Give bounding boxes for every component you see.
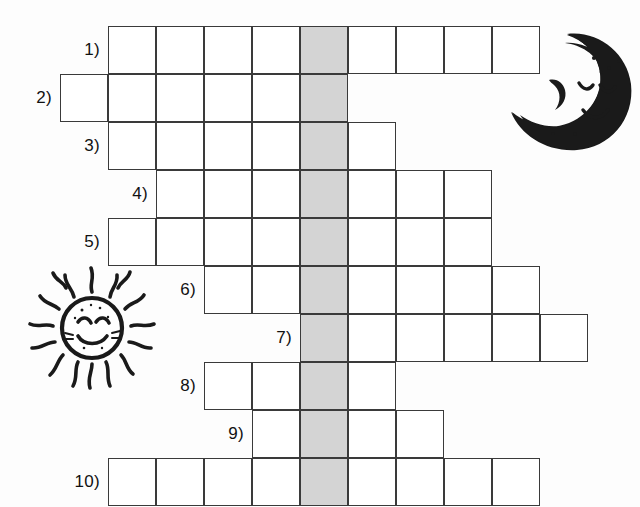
crossword-cell[interactable] xyxy=(396,410,444,458)
sun-illustration xyxy=(18,262,166,394)
crossword-cell[interactable] xyxy=(108,122,156,170)
crossword-cell[interactable] xyxy=(300,266,348,314)
crossword-cell[interactable] xyxy=(300,314,348,362)
crossword-cell[interactable] xyxy=(348,170,396,218)
crossword-cell[interactable] xyxy=(204,122,252,170)
crossword-cell[interactable] xyxy=(300,122,348,170)
crossword-cell[interactable] xyxy=(156,218,204,266)
crossword-cell[interactable] xyxy=(300,362,348,410)
crossword-cell[interactable] xyxy=(108,26,156,74)
crossword-cell[interactable] xyxy=(540,314,588,362)
crossword-cell[interactable] xyxy=(252,218,300,266)
crossword-cell[interactable] xyxy=(348,458,396,506)
crossword-cell[interactable] xyxy=(492,458,540,506)
crossword-cell[interactable] xyxy=(204,74,252,122)
crossword-cell[interactable] xyxy=(60,74,108,122)
crossword-cell[interactable] xyxy=(444,314,492,362)
crossword-cell[interactable] xyxy=(156,26,204,74)
crossword-cell[interactable] xyxy=(252,170,300,218)
crossword-cell[interactable] xyxy=(156,458,204,506)
crossword-cell[interactable] xyxy=(108,458,156,506)
crossword-cell[interactable] xyxy=(348,26,396,74)
crossword-cell[interactable] xyxy=(252,410,300,458)
clue-number-2: 2) xyxy=(2,89,52,106)
crossword-cell[interactable] xyxy=(300,74,348,122)
crossword-cell[interactable] xyxy=(348,410,396,458)
crossword-cell[interactable] xyxy=(492,314,540,362)
crossword-cell[interactable] xyxy=(252,74,300,122)
crossword-cell[interactable] xyxy=(444,170,492,218)
crossword-cell[interactable] xyxy=(348,122,396,170)
crossword-cell[interactable] xyxy=(492,266,540,314)
crossword-cell[interactable] xyxy=(300,218,348,266)
crossword-cell[interactable] xyxy=(396,170,444,218)
crossword-cell[interactable] xyxy=(204,218,252,266)
crossword-cell[interactable] xyxy=(252,458,300,506)
crossword-cell[interactable] xyxy=(204,458,252,506)
crossword-cell[interactable] xyxy=(300,26,348,74)
crossword-cell[interactable] xyxy=(252,362,300,410)
crossword-cell[interactable] xyxy=(396,26,444,74)
moon-illustration xyxy=(505,28,635,153)
crossword-cell[interactable] xyxy=(396,314,444,362)
crossword-cell[interactable] xyxy=(396,458,444,506)
crossword-cell[interactable] xyxy=(348,218,396,266)
clue-number-5: 5) xyxy=(50,233,100,250)
crossword-cell[interactable] xyxy=(204,266,252,314)
crossword-cell[interactable] xyxy=(156,74,204,122)
clue-number-3: 3) xyxy=(50,137,100,154)
crossword-cell[interactable] xyxy=(204,362,252,410)
crossword-cell[interactable] xyxy=(348,362,396,410)
crossword-cell[interactable] xyxy=(156,122,204,170)
crossword-cell[interactable] xyxy=(396,266,444,314)
clue-number-9: 9) xyxy=(194,425,244,442)
clue-number-10: 10) xyxy=(50,473,100,490)
clue-number-4: 4) xyxy=(98,185,148,202)
crossword-cell[interactable] xyxy=(108,74,156,122)
crossword-cell[interactable] xyxy=(444,458,492,506)
clue-number-1: 1) xyxy=(50,41,100,58)
clue-number-7: 7) xyxy=(242,329,292,346)
crossword-cell[interactable] xyxy=(300,170,348,218)
crossword-cell[interactable] xyxy=(348,314,396,362)
crossword-cell[interactable] xyxy=(252,122,300,170)
crossword-cell[interactable] xyxy=(108,218,156,266)
crossword-cell[interactable] xyxy=(204,26,252,74)
crossword-cell[interactable] xyxy=(300,458,348,506)
crossword-cell[interactable] xyxy=(444,218,492,266)
crossword-cell[interactable] xyxy=(444,26,492,74)
crossword-cell[interactable] xyxy=(444,266,492,314)
crossword-cell[interactable] xyxy=(396,218,444,266)
crossword-cell[interactable] xyxy=(300,410,348,458)
crossword-cell[interactable] xyxy=(252,266,300,314)
crossword-cell[interactable] xyxy=(252,26,300,74)
crossword-cell[interactable] xyxy=(204,170,252,218)
crossword-cell[interactable] xyxy=(348,266,396,314)
crossword-cell[interactable] xyxy=(156,170,204,218)
worksheet-page: 1)2)3)4)5)6)7)8)9)10) xyxy=(0,0,640,507)
